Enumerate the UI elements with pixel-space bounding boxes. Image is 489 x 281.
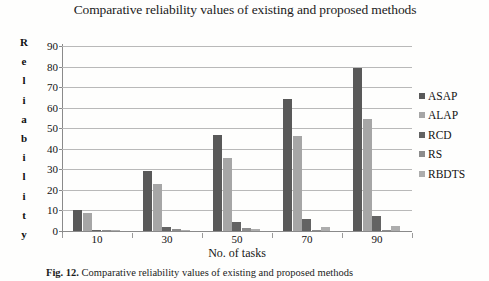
x-axis-tickmark: [132, 233, 133, 238]
y-axis-title-letter: b: [16, 129, 32, 148]
bar-rs: [172, 229, 181, 231]
bar-alap: [363, 119, 372, 231]
y-axis-tick-label: 90: [36, 40, 58, 52]
bar-rbdts: [251, 229, 260, 231]
legend-swatch-icon: [419, 132, 425, 138]
x-axis-tick-label: 90: [357, 233, 397, 245]
bar-group: [272, 46, 342, 231]
y-axis-tick-label: 40: [36, 143, 58, 155]
x-axis-tickmark: [202, 233, 203, 238]
bar-alap: [83, 213, 92, 231]
y-axis-title-letter: i: [16, 148, 32, 167]
x-axis-tick-label: 70: [287, 233, 327, 245]
figure-container: Comparative reliability values of existi…: [0, 0, 489, 281]
caption-text: Comparative reliability values of existi…: [82, 267, 353, 278]
y-axis-title: Reliability: [16, 33, 32, 244]
bar-group: [132, 46, 202, 231]
bar-alap: [293, 136, 302, 231]
bar-rcd: [372, 216, 381, 231]
bar-alap: [223, 158, 232, 231]
y-axis-title-letter: l: [16, 167, 32, 186]
y-axis-tick-label: 0: [36, 225, 58, 237]
y-axis-tick-label: 70: [36, 81, 58, 93]
y-axis-title-letter: y: [16, 225, 32, 244]
x-axis-tickmark: [62, 233, 63, 238]
legend-swatch-icon: [419, 171, 425, 177]
y-axis-tick-label: 10: [36, 204, 58, 216]
legend-item-rbdts[interactable]: RBDTS: [419, 164, 487, 184]
legend-label: ALAP: [428, 109, 458, 121]
bar-group: [62, 46, 132, 231]
y-axis-title-letter: R: [16, 33, 32, 52]
legend-label: RCD: [428, 129, 452, 141]
bar-group: [202, 46, 272, 231]
y-axis-tick-label: 60: [36, 102, 58, 114]
x-axis-title: No. of tasks: [62, 246, 412, 261]
bar-asap: [73, 210, 82, 231]
y-axis-tick-label: 20: [36, 184, 58, 196]
bar-rbdts: [181, 230, 190, 231]
bar-asap: [283, 99, 292, 231]
legend-label: ASAP: [428, 90, 457, 102]
y-axis-title-letter: l: [16, 71, 32, 90]
figure-caption: Fig. 12. Comparative reliability values …: [46, 266, 466, 281]
bar-asap: [353, 68, 362, 231]
legend-swatch-icon: [419, 112, 425, 118]
bar-asap: [213, 135, 222, 231]
bar-rs: [242, 228, 251, 231]
legend-item-rs[interactable]: RS: [419, 145, 487, 165]
x-axis-tick-label: 30: [147, 233, 187, 245]
bar-asap: [143, 171, 152, 231]
bar-rbdts: [111, 230, 120, 231]
bar-group: [342, 46, 412, 231]
y-axis-tick-label: 50: [36, 122, 58, 134]
legend-item-alap[interactable]: ALAP: [419, 106, 487, 126]
x-axis-tickmark: [342, 233, 343, 238]
legend-item-rcd[interactable]: RCD: [419, 125, 487, 145]
bar-rcd: [232, 222, 241, 231]
bar-alap: [153, 184, 162, 231]
bar-rbdts: [321, 227, 330, 231]
x-axis-tick-labels: 1030507090: [62, 233, 412, 247]
y-axis-title-letter: a: [16, 110, 32, 129]
bar-rs: [382, 230, 391, 231]
legend-swatch-icon: [419, 93, 425, 99]
legend-swatch-icon: [419, 151, 425, 157]
caption-figure-label: Fig. 12.: [46, 267, 79, 278]
x-axis-tickmark: [412, 233, 413, 238]
y-axis-tick-label: 80: [36, 61, 58, 73]
legend-label: RS: [428, 148, 442, 160]
x-axis-tick-label: 10: [77, 233, 117, 245]
y-axis-title-letter: e: [16, 52, 32, 71]
chart-title: Comparative reliability values of existi…: [60, 2, 430, 17]
legend-item-asap[interactable]: ASAP: [419, 86, 487, 106]
x-axis-baseline: [62, 231, 412, 232]
bar-rcd: [302, 219, 311, 231]
y-axis-tick-label: 30: [36, 163, 58, 175]
plot-area: [62, 46, 412, 231]
bar-rs: [312, 230, 321, 231]
y-axis-title-letter: t: [16, 206, 32, 225]
x-axis-tickmark: [272, 233, 273, 238]
x-axis-tick-label: 50: [217, 233, 257, 245]
chart-legend: ASAPALAPRCDRSRBDTS: [419, 86, 487, 184]
bar-rs: [102, 230, 111, 231]
bar-rcd: [162, 227, 171, 231]
y-axis-tick-labels: 9080706050403020100: [33, 46, 58, 231]
y-axis-tickmark: [59, 231, 62, 232]
y-axis-title-letter: i: [16, 91, 32, 110]
legend-label: RBDTS: [428, 168, 465, 180]
y-axis-title-letter: i: [16, 187, 32, 206]
bar-rbdts: [391, 226, 400, 231]
bar-rcd: [92, 230, 101, 231]
